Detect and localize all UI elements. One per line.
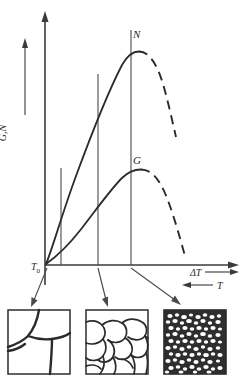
nucleation-growth-diagram — [0, 0, 244, 385]
x-axis-label-delta-t: ΔT — [190, 268, 201, 278]
curve-label-N: N — [133, 29, 140, 40]
curve-G-solid — [46, 170, 141, 265]
microstructure-fine-grain — [164, 310, 226, 374]
microstructure-medium-grain — [86, 310, 148, 374]
guide-lines — [61, 30, 131, 265]
connector-arrow-3 — [131, 268, 181, 305]
connector-arrows — [31, 268, 181, 307]
curve-label-G: G — [133, 155, 141, 166]
curve-N-dashed — [139, 52, 176, 138]
curve-N — [46, 52, 176, 265]
y-axis-label: G,N — [0, 125, 8, 141]
origin-label-subscript: 0 — [37, 267, 41, 275]
T-arrow — [182, 282, 213, 288]
origin-label: T0 — [31, 262, 40, 275]
curve-G-dashed — [141, 170, 185, 257]
connector-arrow-2 — [98, 268, 108, 307]
x-axis-arrowhead — [228, 262, 239, 269]
y-axis-arrowhead — [42, 11, 49, 22]
x-axis-label-t: T — [217, 281, 223, 291]
curve-N-solid — [46, 52, 139, 265]
delta-T-arrow — [205, 269, 239, 275]
y-label-arrow — [22, 38, 28, 115]
curve-G — [46, 170, 185, 265]
microstructure-coarse-grain — [8, 310, 70, 374]
